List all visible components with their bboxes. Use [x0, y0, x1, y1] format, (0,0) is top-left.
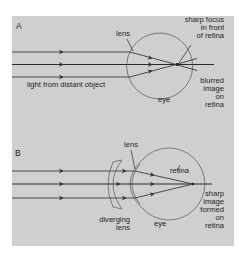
- label-lens-b: lens: [124, 140, 138, 149]
- lens-leader-b: [131, 150, 135, 169]
- panel-a: A lens sharp focus in: [12, 15, 225, 109]
- label-diverging-2: lens: [116, 223, 130, 232]
- light-rays: [12, 50, 214, 80]
- label-retina: retina: [170, 166, 190, 175]
- panel-a-letter: A: [16, 21, 22, 31]
- lens-leader: [127, 39, 133, 51]
- myopia-diagram: A lens sharp focus in: [0, 0, 244, 257]
- label-sharp-5: retina: [205, 221, 225, 230]
- label-eye-b: eye: [154, 219, 166, 228]
- label-lens: lens: [116, 29, 130, 38]
- label-light-source: light from distant object: [27, 80, 106, 89]
- label-eye-a: eye: [158, 95, 170, 104]
- label-focus-3: of retina: [197, 31, 225, 40]
- panel-b: B: [12, 140, 225, 232]
- panel-b-letter: B: [15, 148, 21, 158]
- label-blur-4: retina: [205, 100, 225, 109]
